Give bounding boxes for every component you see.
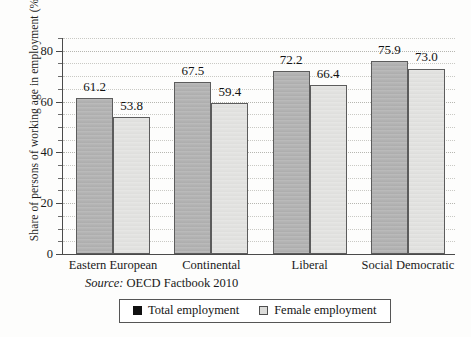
source-text: OECD Factbook 2010 [127, 276, 239, 290]
y-tick-label: 60 [41, 94, 54, 109]
y-tick-minor [58, 229, 62, 230]
y-tick-label: 20 [41, 196, 54, 211]
y-tick-minor [58, 140, 62, 141]
bar-total [76, 98, 113, 254]
y-tick-minor [58, 190, 62, 191]
y-axis-title: Share of persons of working age in emplo… [28, 0, 40, 248]
y-tick-minor [58, 63, 62, 64]
y-axis-line [62, 38, 63, 254]
x-tick-label: Eastern European [69, 258, 158, 273]
source-label: Source: [85, 276, 123, 290]
legend-swatch-total-icon [133, 306, 142, 315]
bar-female [310, 85, 347, 254]
chart-legend: Total employmentFemale employment [119, 299, 391, 323]
y-tick-label: 0 [47, 247, 53, 262]
y-tick-major [56, 102, 62, 103]
bar-total [273, 71, 310, 254]
y-tick-minor [58, 178, 62, 179]
plot-inner: 020406080 61.253.867.559.472.266.475.973… [62, 38, 455, 254]
legend-item: Total employment [133, 303, 239, 318]
source-note: Source: OECD Factbook 2010 [85, 276, 238, 291]
bar-value-label: 61.2 [83, 79, 106, 95]
bar-value-label: 59.4 [219, 84, 242, 100]
y-tick-label: 80 [41, 43, 54, 58]
plot-area: 020406080 61.253.867.559.472.266.475.973… [62, 38, 455, 254]
bar-value-label: 66.4 [317, 66, 340, 82]
bar-value-label: 72.2 [280, 52, 303, 68]
gridline-minor [63, 38, 455, 39]
legend-label: Female employment [274, 303, 376, 318]
y-tick-minor [58, 38, 62, 39]
y-tick-label: 40 [41, 145, 54, 160]
bar-value-label: 53.8 [120, 98, 143, 114]
y-tick-major [56, 152, 62, 153]
x-tick-label: Continental [182, 258, 240, 273]
legend-swatch-female-icon [259, 306, 268, 315]
y-tick-minor [58, 216, 62, 217]
chart-figure: Share of persons of working age in emplo… [0, 0, 471, 337]
legend-label: Total employment [148, 303, 239, 318]
x-tick-label: Social Democratic [362, 258, 455, 273]
bar-total [174, 82, 211, 254]
y-tick-minor [58, 165, 62, 166]
bar-total [371, 61, 408, 254]
x-axis-line [58, 254, 455, 255]
y-tick-minor [58, 114, 62, 115]
y-tick-minor [58, 127, 62, 128]
y-tick-minor [58, 89, 62, 90]
y-tick-major [56, 51, 62, 52]
y-tick-minor [58, 76, 62, 77]
bar-value-label: 67.5 [182, 63, 205, 79]
bar-value-label: 75.9 [378, 42, 401, 58]
x-tick-label: Liberal [292, 258, 328, 273]
bar-female [113, 117, 150, 254]
bar-female [211, 103, 248, 254]
y-tick-major [56, 203, 62, 204]
bar-female [408, 69, 445, 255]
legend-item: Female employment [259, 303, 376, 318]
y-tick-minor [58, 241, 62, 242]
y-tick-major [56, 254, 62, 255]
bar-value-label: 73.0 [415, 49, 438, 65]
